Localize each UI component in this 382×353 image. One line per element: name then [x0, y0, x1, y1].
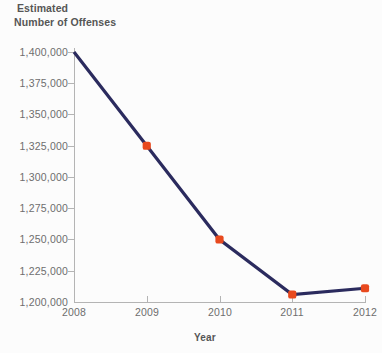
data-point-marker — [143, 142, 151, 150]
x-tick-mark — [365, 296, 366, 303]
x-tick-label: 2011 — [272, 306, 312, 318]
data-line — [74, 52, 365, 295]
chart-title-line-2: Number of Offenses — [14, 16, 116, 30]
line-chart: Estimated Number of Offenses 1,400,000 1… — [0, 0, 382, 353]
y-tick-mark — [68, 52, 75, 53]
y-tick-label: 1,400,000 — [19, 46, 68, 58]
chart-title-line-1: Estimated — [17, 2, 116, 16]
y-tick-label: 1,375,000 — [19, 77, 68, 89]
chart-title: Estimated Number of Offenses — [17, 2, 116, 29]
y-tick-mark — [68, 208, 75, 209]
y-tick-label: 1,300,000 — [19, 171, 68, 183]
x-tick-label: 2010 — [200, 306, 240, 318]
y-tick-label: 1,225,000 — [19, 265, 68, 277]
y-tick-mark — [68, 177, 75, 178]
y-tick-mark — [68, 239, 75, 240]
y-tick-mark — [68, 114, 75, 115]
x-tick-mark — [292, 296, 293, 303]
y-tick-label: 1,350,000 — [19, 108, 68, 120]
data-markers — [143, 142, 369, 299]
y-tick-label: 1,250,000 — [19, 233, 68, 245]
x-axis-title: Year — [0, 332, 382, 343]
y-tick-mark — [68, 146, 75, 147]
y-tick-mark — [68, 83, 75, 84]
data-point-marker — [215, 235, 223, 243]
x-tick-label: 2008 — [54, 306, 94, 318]
y-tick-mark — [68, 271, 75, 272]
y-axis-line — [74, 48, 75, 302]
x-axis-title-label: Year — [194, 332, 216, 343]
x-tick-mark — [220, 296, 221, 303]
y-tick-label: 1,275,000 — [19, 202, 68, 214]
data-point-marker — [361, 284, 369, 292]
y-tick-label: 1,325,000 — [19, 140, 68, 152]
x-tick-mark — [147, 296, 148, 303]
x-tick-label: 2012 — [345, 306, 382, 318]
x-tick-label: 2009 — [127, 306, 167, 318]
